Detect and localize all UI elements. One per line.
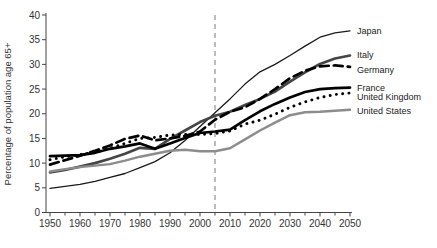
series-label-united-kingdom: United Kingdom (357, 92, 421, 102)
series-label-germany: Germany (357, 65, 395, 75)
series-line-germany (50, 65, 350, 164)
x-tick-label: 1990 (159, 218, 182, 229)
y-tick-label: 0 (34, 207, 40, 218)
y-tick-label: 35 (29, 34, 41, 45)
x-tick-label: 1970 (99, 218, 122, 229)
series-label-italy: Italy (357, 50, 374, 60)
plot-area: 0510152025303540195019601970198019902000… (29, 10, 421, 229)
y-axis-title: Percentage of population age 65+ (2, 42, 13, 185)
x-tick-label: 1960 (69, 218, 92, 229)
y-tick-label: 30 (29, 59, 41, 70)
x-tick-label: 2010 (219, 218, 242, 229)
line-chart-figure: Percentage of population age 65+ 0510152… (0, 0, 437, 248)
x-tick-label: 2020 (249, 218, 272, 229)
series-label-united-states: United States (357, 106, 412, 116)
x-tick-label: 2000 (189, 218, 212, 229)
x-tick-label: 1950 (39, 218, 62, 229)
y-tick-label: 10 (29, 158, 41, 169)
x-tick-label: 2030 (279, 218, 302, 229)
x-tick-label: 2050 (339, 218, 362, 229)
y-tick-label: 25 (29, 84, 41, 95)
series-line-italy (50, 56, 350, 173)
y-tick-label: 15 (29, 133, 41, 144)
chart-canvas: Percentage of population age 65+ 0510152… (0, 0, 437, 248)
series-label-japan: Japan (357, 26, 382, 36)
y-tick-label: 20 (29, 108, 41, 119)
y-tick-label: 5 (34, 182, 40, 193)
y-tick-label: 40 (29, 10, 41, 21)
x-tick-label: 1980 (129, 218, 152, 229)
x-tick-label: 2040 (309, 218, 332, 229)
